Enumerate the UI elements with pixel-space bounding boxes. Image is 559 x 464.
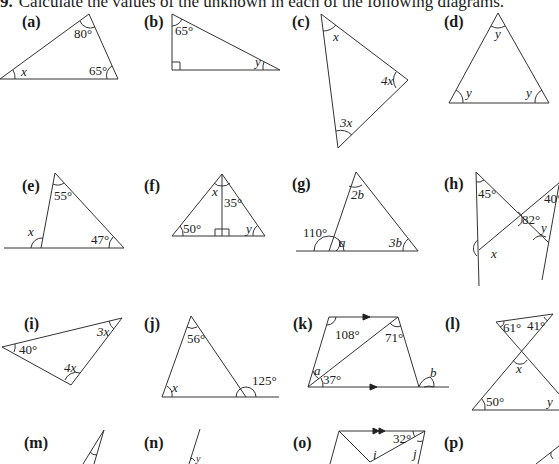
- angle-label: 71°: [385, 330, 403, 345]
- diagram-i: 40° 3x 4x: [2, 318, 122, 385]
- angle-label: 55°: [54, 188, 72, 203]
- angle-label: x: [171, 380, 178, 395]
- angle-label: 35°: [224, 195, 242, 210]
- angle-label: 50°: [486, 394, 504, 409]
- angle-label: 32°: [393, 431, 411, 446]
- angle-label: 3x: [96, 324, 110, 339]
- angle-label: 61°: [503, 320, 521, 335]
- angle-label: x: [20, 64, 27, 79]
- angle-label: 45°: [478, 186, 496, 201]
- angle-label: 65°: [175, 23, 193, 38]
- diagrams-canvas: x 80° 65° 65° y x 4x 3x y y y 5: [0, 0, 559, 464]
- angle-label: 3x: [339, 115, 353, 130]
- angle-label: 82°: [522, 212, 540, 227]
- angle-label: 40°: [19, 342, 37, 357]
- angle-label: a: [314, 363, 321, 378]
- angle-label: x: [490, 246, 497, 261]
- angle-label: i: [373, 447, 377, 462]
- angle-label: 47°: [91, 232, 109, 247]
- diagram-g: 110° a 2b 3b: [296, 172, 418, 251]
- angle-label: a: [339, 235, 346, 250]
- angle-label: y: [493, 26, 501, 41]
- angle-label: y: [545, 394, 553, 409]
- angle-label: 56°: [187, 331, 205, 346]
- angle-label: 50°: [183, 221, 201, 236]
- diagram-m: [83, 430, 104, 464]
- angle-label: x: [332, 29, 339, 44]
- angle-label: 4x: [64, 360, 77, 375]
- diagram-p: [536, 446, 559, 464]
- angle-label: 125°: [252, 373, 277, 388]
- angle-label: 41°: [527, 318, 545, 333]
- angle-label: 37°: [323, 372, 341, 387]
- diagram-h: 45° 40° 82° y x: [473, 172, 559, 286]
- angle-label: y: [195, 453, 201, 464]
- angle-label: 2b: [351, 187, 365, 202]
- diagram-n: y: [189, 429, 201, 464]
- diagram-l: 61° 41° x 50° y: [472, 314, 559, 410]
- diagram-a: x 80° 65°: [0, 14, 118, 79]
- angle-label: 4x: [381, 73, 394, 88]
- diagram-f: x 35° 50° y: [172, 174, 265, 236]
- angle-label: y: [253, 54, 261, 69]
- angle-label: 108°: [335, 327, 360, 342]
- angle-label: 110°: [303, 225, 327, 240]
- angle-label: x: [27, 224, 34, 239]
- angle-label: y: [244, 221, 252, 236]
- angle-label: b: [430, 365, 437, 380]
- diagram-o: 32° i j: [330, 428, 425, 464]
- angle-label: 65°: [89, 63, 107, 78]
- angle-label: y: [539, 220, 547, 235]
- angle-label: x: [211, 184, 218, 199]
- angle-label: y: [524, 85, 532, 100]
- diagram-c: x 4x 3x: [321, 14, 408, 148]
- diagram-e: 55° x 47°: [4, 173, 124, 248]
- angle-label: y: [464, 85, 472, 100]
- angle-label: 3b: [388, 235, 403, 250]
- angle-label: j: [411, 446, 417, 461]
- angle-label: 80°: [74, 26, 92, 41]
- diagram-d: y y y: [449, 13, 549, 103]
- angle-label: 40°: [544, 191, 559, 206]
- diagram-j: 56° x 125°: [162, 316, 279, 397]
- angle-label: x: [515, 361, 522, 376]
- diagram-b: 65° y: [172, 14, 280, 70]
- diagram-k: 108° 71° a 37° b: [308, 314, 449, 390]
